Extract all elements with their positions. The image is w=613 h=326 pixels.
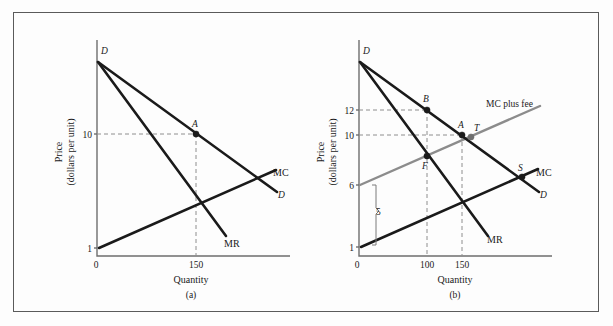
panel-a-ytick-label-10: 10 (83, 130, 93, 140)
panel-a-xtick-label-150: 150 (189, 260, 204, 270)
panel-b-label-demand-top: D (362, 46, 370, 56)
panel-a-caption: (a) (186, 290, 197, 301)
panel-b-label-point-s: S (518, 163, 523, 173)
panel-b-ytick-label-10: 10 (345, 131, 355, 141)
panel-b-label-marginal-cost: MC (536, 167, 552, 178)
panel-a-point-a-marker (193, 131, 199, 137)
panel-a-ytick-label-1: 1 (87, 244, 92, 254)
panel-b-point-b-marker (424, 107, 430, 113)
panel-a-xtick-label-0: 0 (94, 260, 99, 270)
panel-a-label-marginal-revenue: MR (224, 238, 240, 249)
panel-a-label-point-a: A (191, 119, 198, 129)
panel-b-axes (359, 40, 552, 256)
panel-b-label-point-f: F (421, 161, 428, 171)
panel-a-label-demand-bottom: D (277, 190, 285, 200)
panel-a-label-demand-top: D (100, 46, 108, 56)
panel-a-marginal-revenue-curve (98, 62, 226, 236)
panel-a-label-marginal-cost: MC (273, 167, 289, 178)
panel-b-label-demand-bottom: D (539, 190, 547, 200)
panel-b-label-point-b: B (423, 94, 429, 104)
panel-b-label-mc-plus-fee: MC plus fee (486, 99, 533, 109)
panel-b-x-axis-title: Quantity (438, 274, 473, 285)
panel-b-xtick-label-0: 0 (355, 260, 360, 270)
panel-b-point-a-marker (459, 132, 465, 138)
panel-b-ytick-label-1: 1 (349, 243, 354, 253)
panel-b-marginal-cost-curve (361, 169, 538, 247)
panel-b-point-f-marker (424, 153, 430, 159)
panel-a-demand-curve (98, 62, 277, 192)
panel-a-y-axis-title-line1: Price (53, 141, 64, 162)
panel-b-ytick-label-12: 12 (345, 106, 355, 116)
panel-b-xtick-label-150: 150 (455, 260, 470, 270)
panel-b-fee-annotation: 5 (376, 207, 381, 217)
panel-b-point-t-marker (468, 134, 474, 140)
panel-a: D A MC D MR 10 1 0 150 Quantity (a) Pric… (53, 40, 290, 301)
figure-container: D A MC D MR 10 1 0 150 Quantity (a) Pric… (0, 0, 613, 326)
panel-a-x-axis-title: Quantity (174, 274, 209, 285)
panel-a-y-axis-title-line2: (dollars per unit) (65, 118, 77, 185)
panel-b-point-s-marker (519, 174, 525, 180)
panel-b-y-axis-title-line1: Price (315, 141, 326, 162)
panel-b-ytick-label-6: 6 (349, 181, 354, 191)
panel-b-y-axis-title-line2: (dollars per unit) (327, 118, 339, 185)
panel-a-axes (97, 40, 290, 256)
panel-b-label-point-t: T (474, 123, 480, 133)
panel-b-label-point-a: A (457, 120, 464, 130)
figure-svg: D A MC D MR 10 1 0 150 Quantity (a) Pric… (0, 0, 613, 326)
panel-b-label-marginal-revenue: MR (487, 234, 503, 245)
panel-b-xtick-label-100: 100 (420, 260, 435, 270)
panel-b-caption: (b) (449, 290, 460, 301)
panel-b: D B F A T S MC plus fee MC D MR 5 12 10 … (315, 40, 552, 301)
